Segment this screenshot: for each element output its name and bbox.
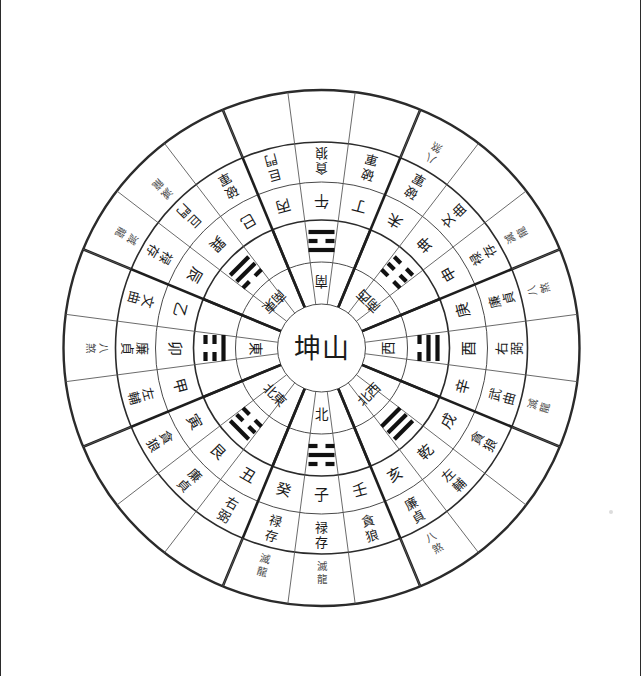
- omen-divider: [400, 538, 420, 586]
- omen-divider: [512, 427, 560, 447]
- star-子-1: 存: [315, 535, 328, 550]
- mountain-丙: 丙: [274, 195, 293, 216]
- mountain-子: 子: [314, 486, 329, 504]
- star-甲-1: 輔: [125, 390, 143, 406]
- mountain-divider: [365, 321, 526, 342]
- mountain-卯: 卯: [166, 341, 184, 356]
- mountain-亥: 亥: [384, 464, 406, 487]
- mountain-癸: 癸: [274, 479, 293, 500]
- mountain-巽: 巽: [206, 232, 229, 255]
- mountain-divider: [365, 354, 526, 375]
- omen-divider: [66, 375, 118, 382]
- mountain-丑: 丑: [237, 464, 259, 487]
- trigram-dui: [420, 335, 438, 361]
- direction-label-east: 東: [248, 342, 264, 355]
- mountain-庚: 庚: [453, 300, 474, 319]
- trigram-gen: [230, 408, 261, 439]
- mountain-酉: 酉: [460, 341, 478, 356]
- center-group[interactable]: 坤山: [294, 333, 350, 364]
- mountain-申: 申: [437, 264, 460, 286]
- trigram-xun: [230, 257, 261, 288]
- star-酉-1: 弼: [509, 342, 524, 355]
- mountain-divider: [295, 144, 316, 305]
- trigram-li: [309, 232, 335, 250]
- mountain-divider: [327, 144, 348, 305]
- omen-divider: [83, 249, 131, 269]
- omen-divider: [164, 143, 196, 184]
- star-辛-1: 曲: [500, 390, 518, 406]
- mountain-午: 午: [314, 192, 329, 210]
- omen-divider: [447, 143, 479, 184]
- mountain-甲: 甲: [169, 376, 190, 395]
- mountain-divider: [295, 392, 316, 553]
- omen-divider: [348, 552, 355, 604]
- star-壬-1: 狼: [364, 527, 380, 545]
- omen-divider: [485, 473, 526, 505]
- compass-stage: 坤山北北東東南東南南西西北西子癸丑艮寅甲卯乙辰巽巳丙午丁未坤申庚酉辛戌乾亥壬禄存…: [1, 0, 641, 676]
- center-mountain-label: 坤山: [294, 333, 350, 364]
- trigram-qian: [382, 408, 413, 439]
- star-子-0: 禄: [315, 520, 328, 535]
- omen-divider: [223, 538, 243, 586]
- mountain-丁: 丁: [350, 195, 369, 216]
- omen-divider: [164, 511, 196, 552]
- star-酉-0: 右: [494, 342, 509, 355]
- star-午-1: 狼: [315, 146, 328, 161]
- omen-divider: [288, 552, 295, 604]
- star-丙-1: 門: [263, 151, 279, 169]
- omen-divider: [117, 191, 158, 223]
- direction-label-west: 西: [380, 342, 396, 355]
- page-frame: 坤山北北東東南東南南西西北西子癸丑艮寅甲卯乙辰巽巳丙午丁未坤申庚酉辛戌乾亥壬禄存…: [0, 0, 641, 676]
- omen-divider: [117, 473, 158, 505]
- corner-speck: [609, 510, 613, 514]
- omen-divider: [83, 427, 131, 447]
- direction-label-north: 北: [315, 406, 329, 422]
- mountain-divider: [117, 354, 278, 375]
- direction-label-southeast: 南東: [260, 286, 290, 316]
- mountain-乾: 乾: [414, 440, 437, 463]
- luopan-compass-diagram[interactable]: 坤山北北東東南東南南西西北西子癸丑艮寅甲卯乙辰巽巳丙午丁未坤申庚酉辛戌乾亥壬禄存…: [1, 0, 641, 676]
- mountain-戌: 戌: [437, 411, 460, 433]
- omen-divider: [223, 110, 243, 158]
- star-卯-1: 貞: [120, 342, 135, 355]
- omen-divider: [526, 375, 578, 382]
- omen-divider: [512, 249, 560, 269]
- star-庚-1: 貞: [500, 289, 518, 305]
- star-丁-1: 軍: [364, 151, 380, 169]
- mountain-未: 未: [384, 209, 406, 232]
- mountain-辰: 辰: [183, 264, 206, 286]
- mountain-辛: 辛: [453, 376, 474, 395]
- omen-卯-1: 煞: [85, 343, 97, 354]
- mountain-乙: 乙: [169, 300, 190, 319]
- direction-label-south: 南: [315, 274, 328, 290]
- star-午-0: 貪: [315, 161, 328, 176]
- omen-子-1: 龍: [317, 573, 328, 585]
- omen-癸-1: 龍: [255, 564, 269, 578]
- star-卯-0: 廉: [135, 342, 150, 355]
- trigram-kan: [309, 446, 335, 464]
- omen-卯-0: 八: [98, 343, 110, 354]
- omen-子-0: 滅: [317, 560, 328, 572]
- mountain-壬: 壬: [350, 479, 369, 500]
- mountain-divider: [117, 321, 278, 342]
- direction-label-northwest: 北西: [353, 380, 383, 410]
- omen-divider: [348, 92, 355, 144]
- omen-divider: [288, 92, 295, 144]
- direction-label-southwest: 南西: [353, 286, 383, 316]
- omen-divider: [66, 314, 118, 321]
- trigram-zhen: [206, 335, 224, 361]
- omen-divider: [526, 314, 578, 321]
- mountain-艮: 艮: [206, 440, 229, 463]
- mountain-divider: [327, 392, 348, 553]
- omen-divider: [447, 511, 479, 552]
- omen-辛-1: 龍: [538, 400, 552, 414]
- direction-label-northeast: 北東: [260, 380, 290, 410]
- mountain-坤: 坤: [414, 232, 437, 255]
- star-癸-1: 存: [263, 527, 279, 545]
- omen-divider: [400, 110, 420, 158]
- star-乙-1: 曲: [125, 289, 143, 305]
- mountain-巳: 巳: [237, 209, 259, 232]
- omen-divider: [485, 191, 526, 223]
- mountain-寅: 寅: [183, 411, 206, 433]
- omen-庚-1: 煞: [537, 281, 551, 295]
